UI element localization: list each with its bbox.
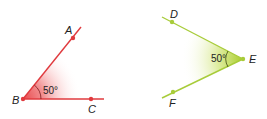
label-a: A	[64, 24, 72, 36]
angle-value-b: 50°	[43, 85, 58, 96]
angle-def-shading	[162, 17, 243, 98]
angle-def: D E F 50°	[162, 8, 257, 109]
label-b: B	[12, 94, 19, 106]
angle-value-e: 50°	[211, 53, 226, 64]
point-d	[170, 20, 174, 24]
point-e	[241, 57, 245, 61]
angles-diagram: A B C 50° D E F 50°	[0, 0, 267, 119]
point-f	[171, 90, 175, 94]
label-c: C	[88, 103, 96, 115]
point-a	[71, 36, 75, 40]
point-c	[89, 97, 93, 101]
label-e: E	[249, 53, 257, 65]
point-b	[21, 97, 25, 101]
label-f: F	[169, 97, 177, 109]
label-d: D	[170, 8, 178, 20]
angle-abc: A B C 50°	[12, 24, 104, 115]
